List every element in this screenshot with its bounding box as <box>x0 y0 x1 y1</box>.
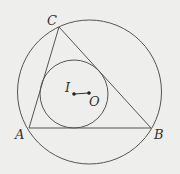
geometry-diagram: C A B I O <box>0 0 180 174</box>
label-c: C <box>47 13 57 28</box>
point-i-dot <box>72 92 76 96</box>
label-i: I <box>64 80 71 95</box>
label-o: O <box>89 94 100 109</box>
label-b: B <box>153 127 164 142</box>
label-a: A <box>14 127 24 142</box>
segment-io <box>74 93 89 94</box>
triangle-abc <box>29 27 151 128</box>
